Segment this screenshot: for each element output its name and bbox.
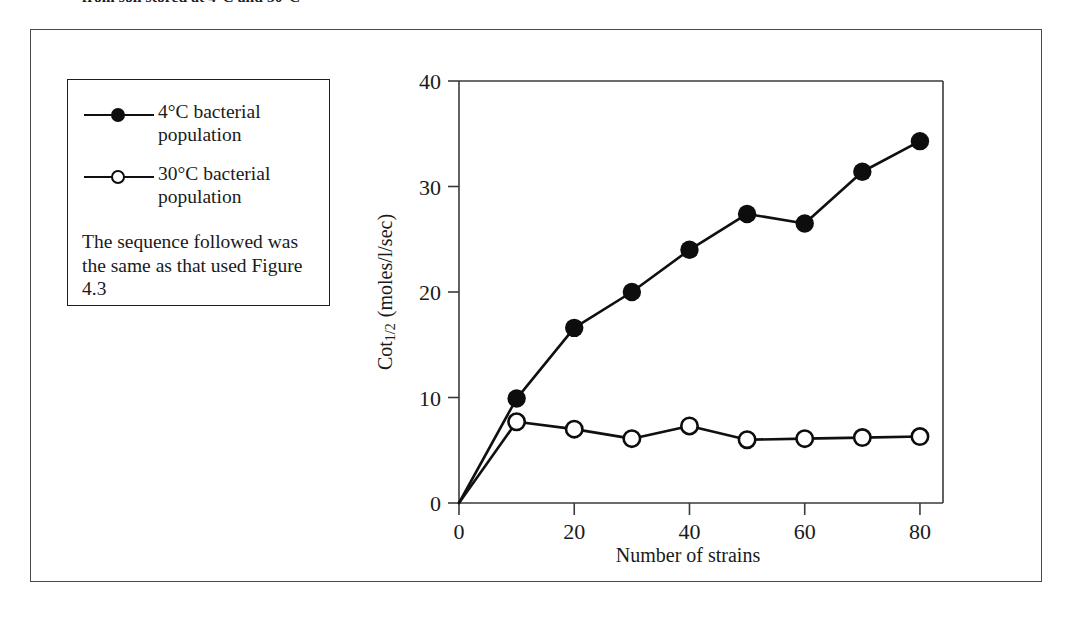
legend-entry-4c: 4°C bacterial population [80,100,318,146]
open-circle-marker-icon [80,167,158,187]
legend-note-text: The sequence followed was the same as th… [82,230,314,301]
legend-entry-30c: 30°C bacterial population [80,162,318,208]
legend-label-30c: 30°C bacterial population [158,162,318,208]
clipped-caption-strip: from soil stored at 4°C and 30°C [0,0,1074,12]
legend-box: 4°C bacterial population 30°C bacterial … [67,79,330,306]
clipped-caption-text: from soil stored at 4°C and 30°C [82,0,300,6]
legend-label-4c: 4°C bacterial population [158,100,318,146]
filled-circle-marker-icon [80,105,158,125]
